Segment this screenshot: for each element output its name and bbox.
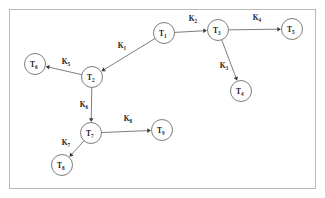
arrow-head-icon (203, 29, 207, 34)
edge-label-k7: K7 (62, 138, 71, 148)
edge-label-k5: K5 (62, 57, 71, 67)
node-t5[interactable]: T5 (282, 19, 303, 40)
edge-label-k6: K6 (80, 100, 89, 110)
edge-t7-to-t8 (69, 141, 83, 157)
edge-t2-to-t6 (46, 65, 82, 75)
edge-t3-to-t5 (228, 27, 280, 32)
node-t7[interactable]: T7 (81, 123, 102, 144)
arrow-head-icon (46, 65, 50, 69)
graph-canvas: T1T2T3T4T5T6T7T8T9 K1K2K3K4K5K6K7K8 (0, 0, 325, 198)
edge-label-k2: K2 (189, 14, 198, 24)
node-t1[interactable]: T1 (154, 23, 175, 44)
node-t3[interactable]: T3 (208, 20, 229, 41)
arrow-head-icon (277, 27, 281, 32)
node-layer: T1T2T3T4T5T6T7T8T9 (25, 19, 303, 176)
edge-label-k8: K8 (124, 114, 133, 124)
node-t6[interactable]: T6 (25, 54, 46, 75)
edge-label-k4: K4 (253, 13, 262, 23)
edge-label-k1: K1 (118, 41, 127, 51)
node-t9[interactable]: T9 (152, 120, 173, 141)
arrow-head-icon (147, 128, 151, 133)
edge-t2-to-t7 (89, 87, 94, 121)
edge-t1-to-t3 (174, 29, 206, 34)
arrow-head-icon (89, 118, 94, 122)
edge-t1-to-t2 (101, 38, 155, 71)
edge-t7-to-t9 (101, 128, 150, 133)
edge-label-k3: K3 (220, 61, 229, 71)
node-t2[interactable]: T2 (82, 67, 103, 88)
node-t4[interactable]: T4 (231, 81, 252, 102)
node-t8[interactable]: T8 (52, 155, 73, 176)
